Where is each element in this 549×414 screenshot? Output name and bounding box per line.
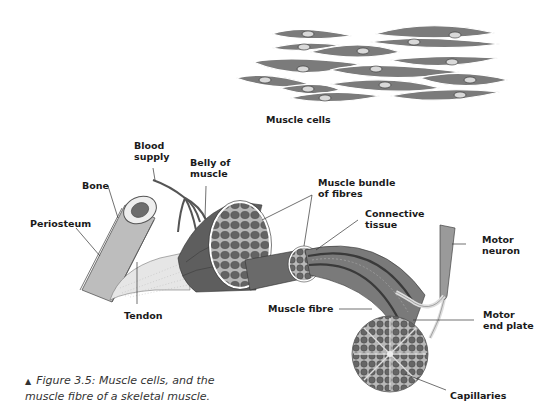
figure-caption: ▲Figure 3.5: Muscle cells, and the muscl… [25,373,214,404]
muscle-bundle-label: Muscle bundle of fibres [318,177,395,199]
muscle-diagram-art [0,0,549,414]
muscle-cells-group [236,26,508,102]
connective-tissue-label: Connective tissue [365,208,425,230]
triangle-marker-icon: ▲ [25,377,31,386]
muscle-fibre-label: Muscle fibre [268,303,333,314]
blood-supply-vessel [153,180,206,232]
motor-end-plate-label: Motor end plate [483,309,534,331]
muscle-cells-label: Muscle cells [266,114,331,125]
periosteum-label: Periosteum [30,218,91,229]
bone-label: Bone [82,180,109,191]
blood-supply-label: Blood supply [134,140,169,162]
belly-of-muscle-label: Belly of muscle [190,157,230,179]
motor-neuron [440,225,455,301]
tendon-label: Tendon [124,310,163,321]
figure: Muscle cells Blood supply Bone Belly of … [0,0,549,414]
capillaries-label: Capillaries [450,390,506,401]
motor-neuron-label: Motor neuron [482,234,520,256]
